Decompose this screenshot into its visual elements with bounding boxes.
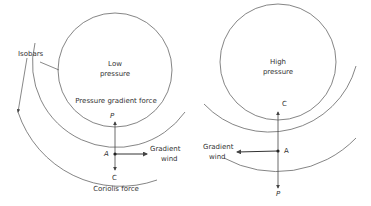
- right-a-label: A: [284, 147, 289, 156]
- high-pressure-label: pressure: [263, 68, 293, 77]
- right-p-label: P: [276, 190, 280, 199]
- left-isobar-inner: [32, 43, 185, 147]
- left-p-label: P: [110, 112, 114, 121]
- right-point-a: [276, 149, 279, 152]
- left-c-label: C: [112, 174, 117, 183]
- isobars-label: Isobars: [18, 50, 43, 59]
- coriolis-force-label: Coriolis force: [93, 185, 139, 194]
- low-label: Low: [108, 60, 122, 69]
- pressure-diagram: [0, 0, 371, 206]
- left-wind-label: wind: [161, 155, 178, 164]
- low-pressure-label: pressure: [100, 70, 130, 79]
- left-gradient-label: Gradient: [150, 145, 180, 154]
- right-isobar-outer: [224, 138, 356, 172]
- high-label: High: [270, 58, 286, 67]
- left-point-a: [113, 152, 116, 155]
- pressure-gradient-force-label: Pressure gradient force: [75, 97, 156, 106]
- isobars-pointer-1: [40, 62, 59, 70]
- right-gradient-label: Gradient: [203, 143, 233, 152]
- right-gradient-wind-arrow: [237, 151, 278, 152]
- right-c-label: C: [282, 100, 287, 109]
- left-a-label: A: [104, 150, 109, 159]
- isobars-pointer-2: [18, 58, 27, 112]
- right-wind-label: wind: [209, 153, 226, 162]
